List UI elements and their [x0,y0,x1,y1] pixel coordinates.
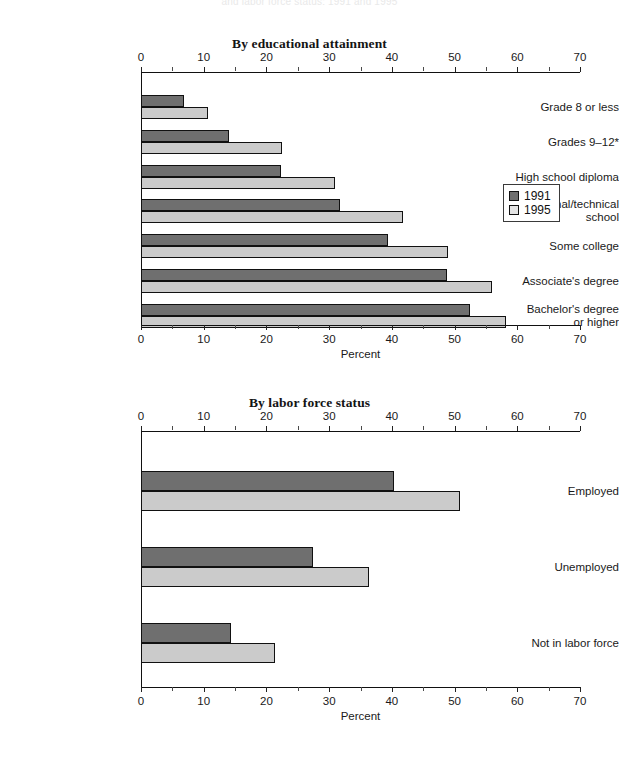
bar-1991 [141,269,447,281]
axis-tick-label: 50 [448,695,461,707]
axis-tick-minor [361,687,362,691]
legend-label: 1995 [524,204,551,217]
bar-1995 [141,177,335,189]
axis-tick [580,325,581,330]
top-axis-line [141,431,580,432]
axis-tick-label: 60 [511,410,524,422]
axis-tick-label: 0 [138,695,144,707]
bar-1995 [141,142,282,154]
legend-label: 1991 [524,190,551,203]
axis-tick-minor [549,325,550,329]
axis-tick-label: 50 [448,410,461,422]
axis-tick-minor [172,325,173,329]
axis-tick-label: 50 [448,333,461,345]
bar-1995 [141,491,460,511]
axis-tick-minor [486,67,487,71]
axis-tick-minor [361,325,362,329]
bottom-axis-tick-labels: 010203040506070 [141,695,580,709]
bottom-axis-ticks [141,325,580,330]
bar-1991 [141,471,394,491]
category-label: Employed [487,485,619,498]
axis-tick-minor [423,426,424,430]
axis-tick-label: 20 [260,333,273,345]
axis-tick [392,687,393,692]
axis-tick [141,687,142,692]
axis-tick-label: 30 [323,410,336,422]
axis-tick-label: 10 [197,51,210,63]
bar-1995 [141,211,403,223]
axis-tick-minor [298,687,299,691]
category-label: Some college [487,240,619,253]
bar-1995 [141,567,369,587]
axis-tick-minor [549,687,550,691]
axis-tick [517,687,518,692]
axis-tick [455,687,456,692]
axis-tick [266,687,267,692]
axis-tick [580,687,581,692]
bar-1991 [141,547,313,567]
axis-tick [580,67,581,72]
bar-1991 [141,304,470,316]
axis-tick-minor [298,67,299,71]
bottom-axis-tick-labels: 010203040506070 [141,333,580,347]
bar-1991 [141,165,281,177]
axis-tick-label: 60 [511,333,524,345]
bottom-axis-ticks [141,687,580,692]
axis-tick-minor [172,687,173,691]
axis-tick-label: 40 [385,333,398,345]
axis-tick-label: 60 [511,695,524,707]
axis-tick [141,325,142,330]
legend-item-1995: 1995 [509,203,551,217]
axis-tick-minor [549,426,550,430]
x-axis-caption: Percent [141,710,580,722]
bar-1991 [141,234,388,246]
bar-1995 [141,107,208,119]
top-axis-tick-labels: 010203040506070 [141,51,580,65]
axis-tick-label: 10 [197,333,210,345]
axis-tick-minor [361,67,362,71]
axis-tick-minor [486,687,487,691]
category-label: Associate's degree [487,275,619,288]
axis-tick-minor [235,426,236,430]
axis-tick-label: 70 [574,51,587,63]
chart-panel-labor-force-status: By labor force status 010203040506070 Em… [0,383,619,759]
axis-tick-label: 10 [197,695,210,707]
category-label: High school diploma [487,170,619,183]
axis-tick [329,687,330,692]
bar-1991 [141,623,231,643]
axis-tick-label: 10 [197,410,210,422]
axis-tick-label: 70 [574,695,587,707]
axis-tick-label: 20 [260,51,273,63]
axis-tick-minor [235,67,236,71]
chart-title: By labor force status [0,395,619,411]
category-label: Grades 9–12* [487,135,619,148]
axis-tick [517,325,518,330]
bar-1995 [141,643,275,663]
axis-tick [580,426,581,431]
legend-swatch-icon-1991 [509,191,519,201]
axis-tick [455,325,456,330]
axis-tick-minor [423,325,424,329]
axis-tick-label: 30 [323,695,336,707]
top-axis-line [141,72,580,73]
axis-tick-label: 30 [323,333,336,345]
bar-1991 [141,199,340,211]
axis-tick-label: 40 [385,51,398,63]
axis-tick-label: 0 [138,410,144,422]
axis-tick-label: 40 [385,695,398,707]
bar-1995 [141,246,448,258]
axis-tick-label: 30 [323,51,336,63]
x-axis-caption: Percent [141,348,580,360]
category-label: Not in labor force [487,637,619,650]
bar-1995 [141,281,492,293]
legend-swatch-icon-1995 [509,205,519,215]
axis-tick [204,687,205,692]
axis-tick [204,325,205,330]
axis-tick-minor [361,426,362,430]
axis-tick-minor [486,426,487,430]
bar-1991 [141,130,229,142]
axis-tick-minor [235,687,236,691]
axis-tick-minor [549,67,550,71]
category-label: Grade 8 or less [487,101,619,114]
axis-tick-minor [423,687,424,691]
